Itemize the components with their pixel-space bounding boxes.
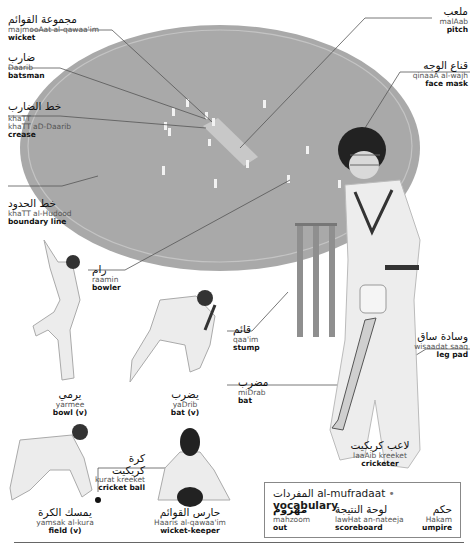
label-crease-english: crease [8, 131, 71, 139]
label-pitch-arabic: ملعب [440, 6, 468, 18]
label-pitch: ملعب malAab pitch [440, 6, 468, 34]
label-leg-pad-english: leg pad [414, 351, 468, 359]
label-stump-arabic: قائم [233, 324, 260, 336]
vocab-out-english: out [273, 524, 310, 532]
wicket-keeper-figure [158, 428, 230, 507]
label-keeper-arabic: حارس القوائم [140, 507, 240, 519]
label-bat-english: bat [238, 397, 268, 405]
label-face-mask-english: face mask [413, 80, 468, 88]
label-cricketer-arabic: لاعب كريكيت [340, 440, 420, 452]
label-crease: خط الضارب khaTT khaTT aD-Daarib crease [8, 101, 71, 139]
label-cricketer-english: cricketer [340, 460, 420, 468]
label-bat-noun: مضرب miDrab bat [238, 377, 268, 405]
bottom-divider [14, 542, 464, 543]
label-bowl-english: bowl (v) [40, 409, 100, 417]
label-bat-verb: يضرب yaDrib bat (v) [155, 389, 215, 417]
label-boundary-line: خط الحدود khaTT al-Hudood boundary line [8, 198, 72, 226]
label-field-english: field (v) [20, 527, 110, 535]
label-leg-pad-arabic: وسادة ساق [414, 331, 468, 343]
label-bowler-arabic: رام [92, 264, 121, 276]
label-ball-english: cricket ball [95, 484, 145, 492]
label-keeper-english: wicket-keeper [140, 527, 240, 535]
cricket-ball-dot [95, 497, 101, 503]
label-leg-pad: وسادة ساق wisaadat saaq leg pad [414, 331, 468, 359]
label-bowler-english: bowler [92, 284, 121, 292]
label-field-arabic: يمسك الكرة [20, 507, 110, 519]
label-cricketer: لاعب كريكيت laaAib kreeket cricketer [340, 440, 420, 468]
label-face-mask: قناع الوجه qinaaA al-wajh face mask [413, 60, 468, 88]
label-wicket-english: wicket [8, 34, 99, 42]
label-wicket-keeper: حارس القوائم Haaris al-qawaa'im wicket-k… [140, 507, 240, 535]
label-stump-english: stump [233, 344, 260, 352]
label-stump: قائم qaa'im stump [233, 324, 260, 352]
label-bowl-arabic: يرمي [40, 389, 100, 401]
vocab-item-out: مهزوم mahzoom out [273, 504, 310, 532]
vocab-scoreboard-english: scoreboard [335, 524, 404, 532]
vocab-out-arabic: مهزوم [273, 504, 310, 516]
label-boundary-arabic: خط الحدود [8, 198, 72, 210]
label-crease-arabic: خط الضارب [8, 101, 71, 113]
label-batsman-english: batsman [8, 72, 45, 80]
vocab-title-arabic: المفردات [273, 487, 314, 499]
label-bat-arabic: مضرب [238, 377, 268, 389]
stumps [295, 223, 337, 337]
vocab-title-translit: al-mufradaat [317, 487, 385, 499]
label-field-verb: يمسك الكرة yamsak al-kura field (v) [20, 507, 110, 535]
label-batsman-arabic: ضارب [8, 52, 45, 64]
vocab-item-umpire: حكم Hakam umpire [422, 504, 452, 532]
label-batsman: ضارب Daarib batsman [8, 52, 45, 80]
label-bowler: رام raamin bowler [92, 264, 121, 292]
label-wicket: مجموعة القوائم majmooAat al-qawaa'im wic… [8, 14, 99, 42]
vocab-umpire-arabic: حكم [422, 504, 452, 516]
vocab-scoreboard-arabic: لوحة النتيجة [335, 504, 404, 516]
label-cricket-ball: كرة كريكيت kurat kreeket cricket ball [95, 453, 145, 493]
vocab-item-scoreboard: لوحة النتيجة lawHat an-nateeja scoreboar… [335, 504, 404, 532]
vocab-umpire-english: umpire [422, 524, 452, 532]
label-pitch-english: pitch [440, 26, 468, 34]
vocabulary-box: المفردات al-mufradaat • vocabulary مهزوم… [264, 482, 461, 538]
label-boundary-english: boundary line [8, 218, 72, 226]
label-bowl-verb: يرمي yarmee bowl (v) [40, 389, 100, 417]
label-ball-arabic: كرة كريكيت [95, 453, 145, 476]
fielder-figure [10, 424, 101, 503]
vocab-title-separator: • [389, 487, 395, 499]
label-wicket-arabic: مجموعة القوائم [8, 14, 99, 26]
label-face-mask-arabic: قناع الوجه [413, 60, 468, 72]
batting-figure [130, 290, 215, 382]
label-bat-verb-arabic: يضرب [155, 389, 215, 401]
label-bat-verb-english: bat (v) [155, 409, 215, 417]
bowler-figure [33, 240, 80, 380]
